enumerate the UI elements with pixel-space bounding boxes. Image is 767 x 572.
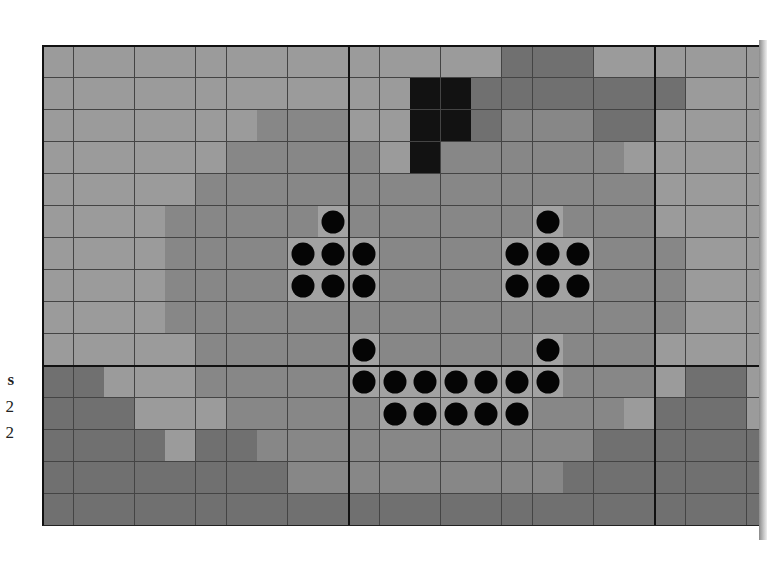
board-cell[interactable] xyxy=(104,366,135,398)
board-cell[interactable] xyxy=(165,46,196,78)
board-cell[interactable] xyxy=(349,238,380,270)
board-cell[interactable] xyxy=(624,270,655,302)
board-cell[interactable] xyxy=(563,398,594,430)
board-cell[interactable] xyxy=(624,46,655,78)
board-cell[interactable] xyxy=(43,78,74,110)
board-cell[interactable] xyxy=(104,110,135,142)
board-cell[interactable] xyxy=(43,462,74,494)
board-cell[interactable] xyxy=(135,494,166,526)
board-cell[interactable] xyxy=(318,270,349,302)
board-cell[interactable] xyxy=(257,110,288,142)
board-cell[interactable] xyxy=(624,430,655,462)
board-cell[interactable] xyxy=(747,494,759,526)
board-cell[interactable] xyxy=(624,238,655,270)
board-cell[interactable] xyxy=(196,398,227,430)
board-cell[interactable] xyxy=(471,366,502,398)
board-cell[interactable] xyxy=(441,270,472,302)
board-cell[interactable] xyxy=(257,366,288,398)
board-cell[interactable] xyxy=(441,206,472,238)
board-cell[interactable] xyxy=(380,302,411,334)
board-cell[interactable] xyxy=(349,494,380,526)
board-cell[interactable] xyxy=(288,398,319,430)
board-cell[interactable] xyxy=(624,78,655,110)
board-cell[interactable] xyxy=(441,78,472,110)
board-cell[interactable] xyxy=(410,238,441,270)
board-cell[interactable] xyxy=(227,398,258,430)
board-cell[interactable] xyxy=(135,270,166,302)
board-cell[interactable] xyxy=(257,462,288,494)
board-cell[interactable] xyxy=(165,398,196,430)
board-cell[interactable] xyxy=(257,174,288,206)
board-cell[interactable] xyxy=(441,462,472,494)
board-cell[interactable] xyxy=(594,142,625,174)
board-cell[interactable] xyxy=(165,174,196,206)
board-cell[interactable] xyxy=(747,174,759,206)
board-cell[interactable] xyxy=(624,110,655,142)
board-cell[interactable] xyxy=(471,494,502,526)
board-cell[interactable] xyxy=(594,302,625,334)
board-cell[interactable] xyxy=(257,206,288,238)
board-cell[interactable] xyxy=(380,494,411,526)
board-cell[interactable] xyxy=(43,366,74,398)
board-cell[interactable] xyxy=(349,110,380,142)
board-cell[interactable] xyxy=(502,366,533,398)
board-cell[interactable] xyxy=(227,494,258,526)
board-cell[interactable] xyxy=(318,462,349,494)
board-cell[interactable] xyxy=(655,78,686,110)
board-cell[interactable] xyxy=(196,206,227,238)
board-cell[interactable] xyxy=(318,494,349,526)
board-cell[interactable] xyxy=(165,238,196,270)
board-cell[interactable] xyxy=(43,238,74,270)
board-cell[interactable] xyxy=(441,366,472,398)
board-cell[interactable] xyxy=(135,110,166,142)
board-cell[interactable] xyxy=(349,462,380,494)
board-cell[interactable] xyxy=(441,174,472,206)
board-cell[interactable] xyxy=(471,78,502,110)
board-cell[interactable] xyxy=(410,366,441,398)
board-cell[interactable] xyxy=(686,142,717,174)
board-cell[interactable] xyxy=(716,462,747,494)
board-cell[interactable] xyxy=(410,174,441,206)
board-cell[interactable] xyxy=(165,366,196,398)
board-cell[interactable] xyxy=(349,366,380,398)
board-cell[interactable] xyxy=(257,142,288,174)
board-cell[interactable] xyxy=(318,238,349,270)
board-cell[interactable] xyxy=(288,366,319,398)
board-cell[interactable] xyxy=(716,46,747,78)
board-cell[interactable] xyxy=(165,142,196,174)
board-cell[interactable] xyxy=(380,142,411,174)
board-cell[interactable] xyxy=(227,462,258,494)
board-cell[interactable] xyxy=(594,110,625,142)
board-cell[interactable] xyxy=(318,110,349,142)
board-cell[interactable] xyxy=(227,430,258,462)
board-cell[interactable] xyxy=(349,78,380,110)
board-cell[interactable] xyxy=(227,238,258,270)
board-cell[interactable] xyxy=(257,238,288,270)
board-cell[interactable] xyxy=(686,270,717,302)
board-cell[interactable] xyxy=(227,302,258,334)
board-cell[interactable] xyxy=(533,462,564,494)
board-cell[interactable] xyxy=(686,334,717,366)
board-cell[interactable] xyxy=(502,398,533,430)
board-cell[interactable] xyxy=(747,110,759,142)
board-cell[interactable] xyxy=(380,206,411,238)
board-cell[interactable] xyxy=(747,462,759,494)
board-cell[interactable] xyxy=(471,302,502,334)
board-cell[interactable] xyxy=(349,174,380,206)
board-cell[interactable] xyxy=(624,494,655,526)
board-cell[interactable] xyxy=(43,302,74,334)
board-cell[interactable] xyxy=(257,302,288,334)
board-cell[interactable] xyxy=(441,398,472,430)
board-cell[interactable] xyxy=(563,206,594,238)
board-cell[interactable] xyxy=(716,174,747,206)
board-cell[interactable] xyxy=(563,334,594,366)
board-cell[interactable] xyxy=(104,462,135,494)
board-cell[interactable] xyxy=(165,206,196,238)
board-cell[interactable] xyxy=(318,398,349,430)
board-cell[interactable] xyxy=(43,174,74,206)
board-cell[interactable] xyxy=(441,142,472,174)
board-cell[interactable] xyxy=(380,46,411,78)
board-cell[interactable] xyxy=(196,238,227,270)
board-cell[interactable] xyxy=(380,334,411,366)
board-cell[interactable] xyxy=(410,270,441,302)
